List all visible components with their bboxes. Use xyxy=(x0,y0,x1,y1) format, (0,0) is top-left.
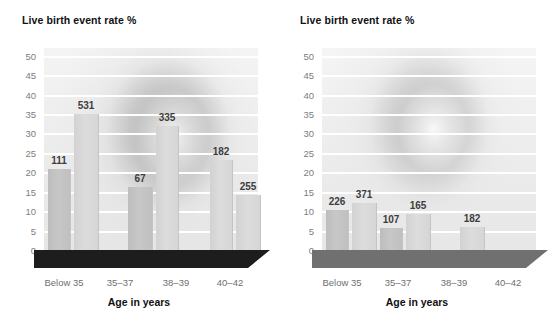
x-tick-label: 40–42 xyxy=(495,277,521,288)
bar-value-label: 531 xyxy=(78,100,95,111)
y-tick-label: 10 xyxy=(25,206,36,217)
bar xyxy=(380,228,403,250)
y-tick-label: 15 xyxy=(25,186,36,197)
bar-value-label: 335 xyxy=(159,112,176,123)
x-axis-title-right: Age in years xyxy=(278,296,556,308)
bar xyxy=(352,203,377,250)
chart-panel-left: Live birth event rate % 5045403530252015… xyxy=(0,0,278,316)
y-tick-label: 50 xyxy=(303,50,314,61)
bar-series-left: 11153167335182255 xyxy=(44,48,258,250)
bar xyxy=(74,114,99,250)
x-tick-label: 40–42 xyxy=(217,277,243,288)
bar xyxy=(326,210,349,250)
bar xyxy=(210,160,233,250)
y-axis-left: 50454035302520151050 xyxy=(0,48,42,250)
y-tick-label: 10 xyxy=(303,206,314,217)
bar xyxy=(236,195,261,250)
chart-floor-right xyxy=(312,248,548,270)
bar-value-label: 182 xyxy=(213,146,230,157)
y-tick-label: 15 xyxy=(303,186,314,197)
plot-area-right: 226371107165182 xyxy=(322,48,536,250)
chart-title-right: Live birth event rate % xyxy=(300,14,414,26)
bar-value-label: 107 xyxy=(383,214,400,225)
bar-value-label: 67 xyxy=(134,173,145,184)
bar xyxy=(156,126,179,250)
y-tick-label: 40 xyxy=(25,89,36,100)
y-tick-label: 35 xyxy=(303,109,314,120)
plot-area-left: 11153167335182255 xyxy=(44,48,258,250)
x-tick-label: 38–39 xyxy=(163,277,189,288)
chart-title-left: Live birth event rate % xyxy=(22,14,136,26)
x-tick-label: Below 35 xyxy=(44,277,83,288)
x-tick-label: 38–39 xyxy=(441,277,467,288)
bar-value-label: 226 xyxy=(329,196,346,207)
y-tick-label: 45 xyxy=(25,70,36,81)
y-tick-label: 30 xyxy=(25,128,36,139)
bar-value-label: 371 xyxy=(356,189,373,200)
y-tick-label: 5 xyxy=(31,225,36,236)
y-tick-label: 45 xyxy=(303,70,314,81)
y-tick-label: 5 xyxy=(309,225,314,236)
chart-floor-left xyxy=(34,248,270,270)
x-tick-label: 35–37 xyxy=(385,277,411,288)
x-tick-label: 35–37 xyxy=(107,277,133,288)
x-axis-labels-right: Below 3535–3738–3940–42 xyxy=(312,277,548,293)
bar-series-right: 226371107165182 xyxy=(322,48,536,250)
bar xyxy=(460,227,485,250)
y-tick-label: 50 xyxy=(25,50,36,61)
y-tick-label: 25 xyxy=(303,147,314,158)
chart-panel-right: Live birth event rate % 5045403530252015… xyxy=(278,0,556,316)
y-tick-label: 25 xyxy=(25,147,36,158)
x-tick-label: Below 35 xyxy=(322,277,361,288)
x-axis-labels-left: Below 3535–3738–3940–42 xyxy=(34,277,270,293)
x-axis-title-left: Age in years xyxy=(0,296,278,308)
bar xyxy=(406,214,431,250)
y-tick-label: 40 xyxy=(303,89,314,100)
bar-value-label: 111 xyxy=(51,155,67,166)
y-tick-label: 20 xyxy=(303,167,314,178)
bar xyxy=(48,169,71,250)
y-tick-label: 35 xyxy=(25,109,36,120)
y-tick-label: 20 xyxy=(25,167,36,178)
y-tick-label: 30 xyxy=(303,128,314,139)
bar xyxy=(128,187,153,250)
bar-value-label: 165 xyxy=(410,200,427,211)
bar-value-label: 255 xyxy=(240,181,257,192)
y-axis-right: 50454035302520151050 xyxy=(278,48,320,250)
bar-value-label: 182 xyxy=(464,213,481,224)
